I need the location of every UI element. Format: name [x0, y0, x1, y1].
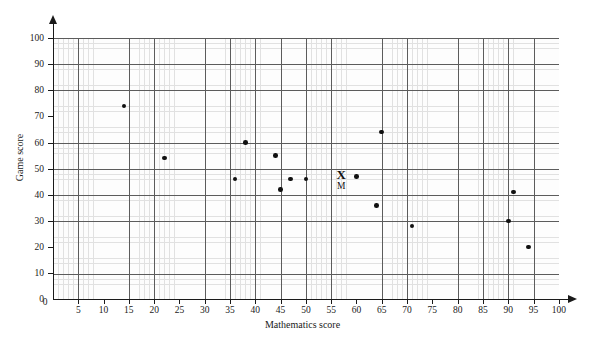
y-axis-line	[53, 22, 54, 300]
data-point	[374, 203, 379, 208]
y-axis-tick	[48, 64, 53, 65]
y-axis-tick-label: 0	[8, 293, 44, 305]
x-axis-arrow-icon	[568, 295, 577, 303]
y-axis-tick	[48, 169, 53, 170]
mean-cross-marker: X	[337, 167, 346, 180]
y-axis-tick	[48, 143, 53, 144]
y-axis-tick	[48, 38, 53, 39]
data-point	[243, 140, 248, 145]
y-axis-tick	[48, 273, 53, 274]
y-axis-tick	[48, 116, 53, 117]
x-axis-tick-label: 100	[539, 304, 579, 316]
y-axis-title: Game score	[14, 98, 25, 218]
major-gridlines	[53, 38, 559, 300]
y-axis-tick	[48, 90, 53, 91]
y-axis-tick	[48, 221, 53, 222]
data-point	[506, 219, 511, 224]
data-point	[511, 190, 516, 195]
x-axis-title: Mathematics score	[0, 319, 605, 330]
y-axis-tick-label: 80	[8, 84, 44, 96]
scatter-plot-figure: 0510152025303540455055606570758085909510…	[0, 0, 605, 347]
y-axis-tick	[48, 247, 53, 248]
y-axis-tick-label: 10	[8, 267, 44, 279]
data-point	[273, 153, 278, 158]
y-axis-tick-label: 100	[8, 32, 44, 44]
data-point	[278, 187, 283, 192]
y-axis-tick	[48, 195, 53, 196]
mean-marker-label: M	[337, 181, 345, 191]
data-point	[162, 156, 167, 161]
x-axis-line	[53, 299, 571, 300]
y-axis-arrow-icon	[49, 15, 57, 24]
plot-area	[53, 38, 559, 300]
y-axis-tick-label: 20	[8, 241, 44, 253]
data-point	[354, 174, 359, 179]
data-point	[526, 245, 531, 250]
y-axis-tick-label: 90	[8, 58, 44, 70]
